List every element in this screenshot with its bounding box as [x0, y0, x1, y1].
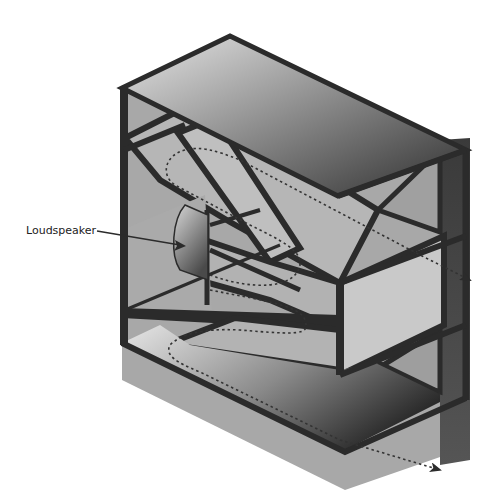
loudspeaker-label: Loudspeaker — [26, 224, 97, 237]
horn-enclosure-diagram: Loudspeaker — [0, 0, 504, 491]
